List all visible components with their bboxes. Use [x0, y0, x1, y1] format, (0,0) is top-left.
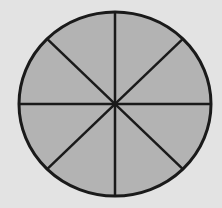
diagram-canvas — [0, 0, 222, 208]
fraction-circle — [0, 0, 222, 208]
divider-lines — [19, 12, 211, 196]
